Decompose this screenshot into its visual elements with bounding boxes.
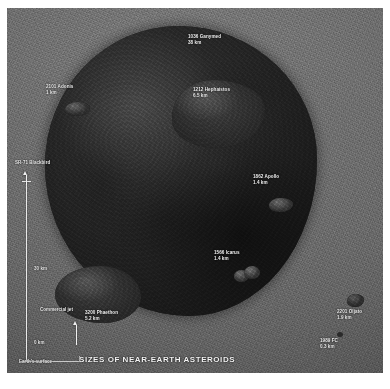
- asteroid-body-icarus-b: [244, 266, 260, 279]
- asteroid-size: 1.4 km: [253, 180, 279, 186]
- infographic-plate: 1036 Ganymed 38 km 1212 Hephaistos 6.5 k…: [7, 8, 383, 373]
- scale-label-earths-surface: Earth's surface: [19, 359, 52, 364]
- asteroid-size: 1.4 km: [214, 256, 240, 262]
- asteroid-name: 2201 Oljato: [337, 309, 362, 314]
- asteroid-size: 1.9 km: [337, 315, 362, 321]
- asteroid-size: 0.3 km: [320, 344, 338, 350]
- asteroid-size: 5.2 km: [85, 316, 118, 322]
- page-title: SIZES OF NEAR-EARTH ASTEROIDS: [79, 355, 235, 364]
- asteroid-label-ganymed: 1036 Ganymed 38 km: [188, 34, 221, 45]
- asteroid-label-apollo: 1862 Apollo 1.4 km: [253, 174, 279, 185]
- asteroid-name: 1862 Apollo: [253, 174, 279, 179]
- commercial-jet-pointer-stem: [76, 325, 77, 345]
- asteroid-body-oljato: [347, 294, 364, 307]
- asteroid-body-1989fc: [337, 332, 343, 337]
- asteroid-name: 1989 FC: [320, 338, 338, 343]
- altitude-scale: SR-71 Blackbird 30 km Commercial jet 0 k…: [7, 8, 77, 373]
- body-texture: [347, 294, 364, 307]
- asteroid-size-infographic: 1036 Ganymed 38 km 1212 Hephaistos 6.5 k…: [0, 0, 390, 389]
- blackbird-pointer-stem: [26, 175, 27, 185]
- scale-label-commercial-jet: Commercial jet: [40, 307, 73, 312]
- scale-label-blackbird: SR-71 Blackbird: [15, 160, 50, 165]
- asteroid-label-1989fc: 1989 FC 0.3 km: [320, 338, 338, 349]
- asteroid-label-phaethon: 3200 Phaethon 5.2 km: [85, 310, 118, 321]
- scale-label-0km: 0 km: [34, 340, 44, 345]
- asteroid-name: 1212 Hephaistos: [193, 87, 230, 92]
- asteroid-size: 38 km: [188, 40, 221, 46]
- asteroid-label-oljato: 2201 Oljato 1.9 km: [337, 309, 362, 320]
- scale-label-30km: 30 km: [34, 266, 47, 271]
- asteroid-label-hephaistos: 1212 Hephaistos 6.5 km: [193, 87, 230, 98]
- asteroid-name: 3200 Phaethon: [85, 310, 118, 315]
- scale-axis-line: [26, 181, 27, 362]
- asteroid-name: 1566 Icarus: [214, 250, 240, 255]
- body-texture: [244, 266, 260, 279]
- asteroid-label-icarus: 1566 Icarus 1.4 km: [214, 250, 240, 261]
- asteroid-size: 6.5 km: [193, 93, 230, 99]
- asteroid-name: 1036 Ganymed: [188, 34, 221, 39]
